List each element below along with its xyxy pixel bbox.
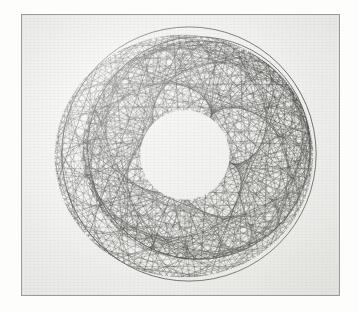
page-canvas — [0, 0, 359, 312]
chord-envelope-figure — [22, 15, 339, 295]
central-clear-hole — [140, 110, 229, 199]
plate-frame — [21, 14, 340, 296]
